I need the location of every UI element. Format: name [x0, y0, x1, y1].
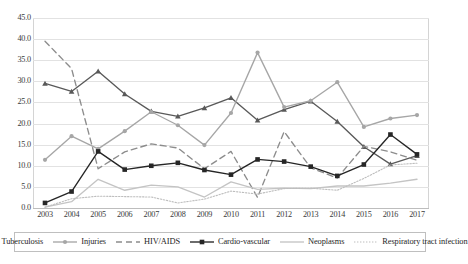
series-line	[45, 179, 417, 207]
data-point-marker	[415, 152, 420, 157]
x-axis-tick-label: 2008	[170, 210, 186, 220]
data-point-marker	[149, 110, 153, 114]
data-point-marker	[282, 105, 286, 109]
x-axis-tick-label: 2012	[276, 210, 292, 220]
legend-swatch-icon	[189, 237, 215, 247]
data-point-marker	[335, 80, 339, 84]
series-neoplasms	[45, 179, 417, 207]
data-point-marker	[255, 51, 259, 55]
data-point-marker	[282, 159, 287, 164]
data-point-marker	[200, 240, 205, 245]
series-line	[45, 163, 417, 207]
data-point-marker	[229, 172, 234, 177]
x-axis-tick-label: 2015	[356, 210, 372, 220]
data-point-marker	[335, 174, 340, 179]
data-point-marker	[362, 125, 366, 129]
x-axis-tick-label: 2013	[303, 210, 319, 220]
x-axis-tick-label: 2007	[143, 210, 159, 220]
data-point-marker	[309, 99, 313, 103]
y-axis-tick-label: 40.0	[1, 35, 31, 43]
data-point-marker	[362, 162, 367, 167]
series-layer	[33, 18, 429, 208]
y-axis-tick-label: 20.0	[1, 120, 31, 128]
series-line	[45, 71, 417, 164]
data-point-marker	[43, 158, 47, 162]
legend-swatch-icon	[353, 237, 379, 247]
data-point-marker	[69, 134, 73, 138]
x-axis-tick-label: 2014	[329, 210, 345, 220]
data-point-marker	[229, 111, 233, 115]
legend-label: Neoplasms	[308, 237, 344, 247]
data-point-marker	[122, 167, 127, 172]
legend-item-tuberculosis[interactable]: Tuberculosis	[0, 237, 43, 247]
data-point-marker	[123, 129, 127, 133]
y-axis-tick-label: 35.0	[1, 56, 31, 64]
y-axis-tick-label: 25.0	[1, 98, 31, 106]
data-point-marker	[255, 157, 260, 162]
plot-area	[33, 18, 429, 208]
legend-item-neoplasms[interactable]: Neoplasms	[279, 237, 344, 247]
data-point-marker	[176, 123, 180, 127]
legend-swatch-icon	[279, 237, 305, 247]
legend-item-hiv-aids[interactable]: HIV/AIDS	[115, 237, 180, 247]
legend-label: Respiratory tract infection	[382, 237, 467, 247]
x-axis-tick-label: 2010	[223, 210, 239, 220]
legend-label: HIV/AIDS	[144, 237, 180, 247]
legend-label: Tuberculosis	[1, 237, 43, 247]
data-point-marker	[415, 113, 419, 117]
x-axis-tick-label: 2017	[409, 210, 425, 220]
data-point-marker	[42, 81, 48, 86]
data-point-marker	[228, 95, 234, 100]
y-axis-tick-label: 0.0	[1, 204, 31, 212]
x-axis-tick-label: 2006	[117, 210, 133, 220]
y-axis-tick-label: 30.0	[1, 77, 31, 85]
legend-item-cardio-vascular[interactable]: Cardio-vascular	[189, 237, 270, 247]
data-point-marker	[95, 68, 101, 73]
y-axis: 0.05.010.015.020.025.030.035.040.045.0	[0, 18, 31, 208]
data-point-marker	[202, 168, 207, 173]
x-axis-tick-label: 2011	[250, 210, 265, 220]
y-axis-tick-label: 45.0	[1, 14, 31, 22]
x-axis-tick-label: 2016	[383, 210, 399, 220]
y-axis-tick-label: 15.0	[1, 141, 31, 149]
data-point-marker	[96, 149, 101, 154]
x-axis: 2003200420052006200720082009201020112012…	[33, 210, 429, 224]
chart-legend: TuberculosisInjuriesHIV/AIDSCardio-vascu…	[14, 232, 426, 252]
data-point-marker	[388, 132, 393, 137]
x-axis-tick-label: 2009	[197, 210, 213, 220]
x-axis-tick-label: 2005	[90, 210, 106, 220]
data-point-marker	[63, 240, 67, 244]
legend-item-respiratory-tract-infection[interactable]: Respiratory tract infection	[353, 237, 467, 247]
legend-item-injuries[interactable]: Injuries	[52, 237, 106, 247]
data-point-marker	[176, 161, 181, 166]
data-point-marker	[388, 116, 392, 120]
data-point-marker	[202, 143, 206, 147]
legend-label: Injuries	[81, 237, 106, 247]
data-point-marker	[149, 163, 154, 168]
series-respiratory-tract-infection	[45, 163, 417, 207]
legend-swatch-icon	[52, 237, 78, 247]
data-point-marker	[69, 189, 74, 194]
data-point-marker	[43, 201, 48, 206]
x-axis-tick-label: 2003	[37, 210, 53, 220]
x-axis-tick-label: 2004	[64, 210, 80, 220]
gridline	[33, 208, 429, 209]
legend-swatch-icon	[115, 237, 141, 247]
y-axis-tick-label: 10.0	[1, 162, 31, 170]
legend-label: Cardio-vascular	[218, 237, 270, 247]
data-point-marker	[308, 164, 313, 169]
y-axis-tick-label: 5.0	[1, 183, 31, 191]
